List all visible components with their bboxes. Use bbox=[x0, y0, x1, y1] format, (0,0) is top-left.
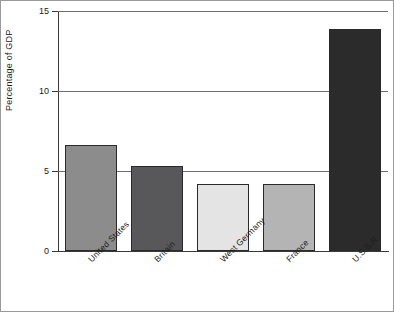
y-tick-group: 5 bbox=[58, 171, 59, 172]
y-tick-group: 15 bbox=[58, 11, 59, 12]
y-tick-mark bbox=[52, 11, 58, 12]
y-axis-title: Percentage of GDP bbox=[4, 0, 18, 111]
y-tick-mark bbox=[52, 171, 58, 172]
y-tick-label: 0 bbox=[44, 246, 49, 256]
bar bbox=[329, 29, 381, 251]
bar bbox=[131, 166, 183, 251]
y-tick-label: 15 bbox=[39, 6, 49, 16]
y-tick-mark bbox=[52, 91, 58, 92]
gridline bbox=[58, 11, 388, 12]
y-tick-mark bbox=[52, 251, 58, 252]
y-tick-label: 10 bbox=[39, 86, 49, 96]
y-axis-line bbox=[58, 11, 59, 252]
y-tick-group: 0 bbox=[58, 251, 59, 252]
plot-area: 051015 bbox=[58, 11, 388, 251]
y-tick-group: 10 bbox=[58, 91, 59, 92]
chart-screenshot: Percentage of GDP 051015 United StatesBr… bbox=[0, 0, 394, 312]
y-tick-label: 5 bbox=[44, 166, 49, 176]
